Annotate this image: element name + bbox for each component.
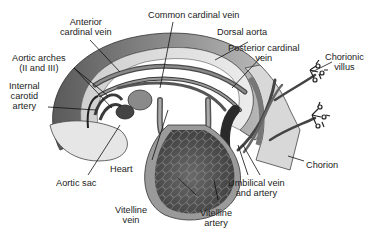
label-internal-carotid-artery: Internal carotid artery (9, 81, 40, 111)
label-common-cardinal-vein: Common cardinal vein (148, 10, 239, 20)
label-chorion: Chorion (306, 160, 338, 170)
label-dorsal-aorta: Dorsal aorta (217, 27, 267, 37)
label-vitelline-vein: Vitelline vein (115, 205, 147, 225)
embryo-circulation-illustration (0, 0, 384, 239)
label-aortic-sac: Aortic sac (56, 178, 96, 188)
diagram-stage: Common cardinal vein Anterior cardinal v… (0, 0, 384, 239)
label-anterior-cardinal-vein: Anterior cardinal vein (60, 17, 112, 37)
label-vitelline-artery: Vitelline artery (200, 208, 232, 228)
label-heart: Heart (110, 164, 132, 174)
label-posterior-cardinal-vein: Posterior cardinal vein (228, 43, 300, 63)
label-aortic-arches: Aortic arches (II and III) (12, 53, 66, 73)
heart (116, 90, 152, 119)
label-umbilical-vein-artery: Umbilical vein and artery (228, 178, 285, 198)
label-chorionic-villus: Chorionic villus (325, 52, 364, 72)
